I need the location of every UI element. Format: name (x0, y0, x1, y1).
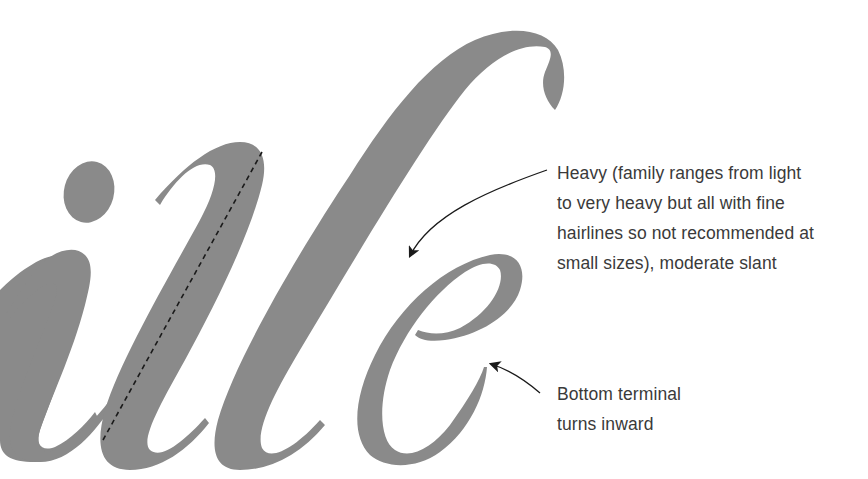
glyph-i-dot (57, 156, 121, 229)
arrow-weight-icon (410, 170, 547, 256)
annotation-weight-line: to very heavy but all with fine (557, 188, 814, 218)
annotation-weight-line: Heavy (family ranges from light (557, 158, 814, 188)
glyph-e (357, 254, 522, 465)
glyph-l-second (214, 31, 564, 470)
annotation-weight-line: hairlines so not recommended at (557, 218, 814, 248)
annotation-weight-line: small sizes), moderate slant (557, 248, 814, 278)
glyph-group (0, 31, 564, 470)
annotation-terminal: Bottom terminal turns inward (557, 379, 681, 439)
annotation-weight: Heavy (family ranges from light to very … (557, 158, 814, 278)
arrow-terminal-icon (491, 364, 540, 393)
annotation-terminal-line: Bottom terminal (557, 379, 681, 409)
annotation-terminal-line: turns inward (557, 409, 681, 439)
